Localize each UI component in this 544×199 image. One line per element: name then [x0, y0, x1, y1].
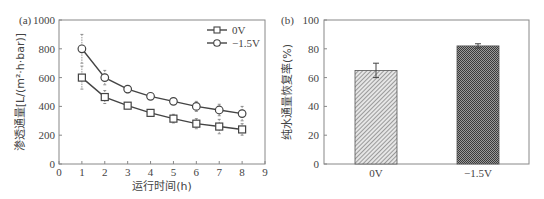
bar-rect: [457, 46, 499, 164]
x-tick-label: 0: [56, 166, 62, 178]
y-tick-label: 0: [50, 158, 56, 170]
x-tick-label: 5: [171, 166, 177, 178]
circle-marker: [238, 110, 246, 118]
circle-marker: [78, 45, 86, 53]
circle-marker: [124, 85, 132, 93]
circle-marker: [215, 106, 223, 114]
x-axis-title: 运行时间(h): [132, 180, 192, 193]
square-marker: [147, 109, 154, 116]
x-tick-label: 2: [102, 166, 108, 178]
y-tick-label: 40: [308, 100, 320, 112]
y-tick-label: 800: [39, 43, 56, 55]
x-tick-label: 1: [79, 166, 85, 178]
y-tick-label: 200: [39, 129, 56, 141]
x-tick-label: 9: [262, 166, 268, 178]
circle-marker: [170, 98, 178, 106]
x-category-label: 0V: [369, 167, 383, 179]
x-tick-label: 8: [239, 166, 245, 178]
legend-circle-icon: [214, 40, 221, 47]
circle-marker: [193, 103, 201, 111]
y-tick-label: 80: [308, 43, 320, 55]
panel-b-bar-chart: 020406080100纯水通量恢复率(%)(b)0V−1.5V: [280, 14, 529, 179]
bar-rect: [355, 70, 397, 164]
y-axis-title: 渗透通量[L/(m²·h·bar)]: [13, 33, 27, 151]
square-marker: [124, 102, 131, 109]
circle-marker: [147, 93, 155, 101]
legend: 0V−1.5V: [207, 24, 260, 49]
x-tick-label: 4: [148, 166, 154, 178]
square-marker: [101, 94, 108, 101]
legend-label: −1.5V: [232, 37, 260, 49]
circle-marker: [101, 74, 109, 82]
figure: 020040060080010000123456789运行时间(h)渗透通量[L…: [0, 0, 544, 199]
bar-minus-1-5v: −1.5V: [457, 44, 499, 179]
y-tick-label: 60: [308, 72, 320, 84]
square-marker: [170, 115, 177, 122]
square-marker: [78, 74, 85, 81]
panel-a-line-chart: 020040060080010000123456789运行时间(h)渗透通量[L…: [13, 14, 268, 193]
x-tick-label: 3: [125, 166, 131, 178]
series-minus-1-5v: [78, 34, 246, 120]
panel-label: (a): [19, 14, 32, 27]
y-tick-label: 100: [303, 14, 320, 26]
legend-label: 0V: [232, 24, 246, 36]
y-tick-label: 400: [39, 100, 56, 112]
square-marker: [239, 126, 246, 133]
x-tick-label: 7: [216, 166, 222, 178]
legend-square-icon: [214, 27, 220, 33]
y-axis-title: 纯水通量恢复率(%): [280, 44, 294, 140]
y-tick-label: 1000: [33, 14, 56, 26]
square-marker: [193, 120, 200, 127]
square-marker: [216, 123, 223, 130]
y-tick-label: 20: [308, 129, 320, 141]
x-category-label: −1.5V: [464, 167, 492, 179]
x-tick-label: 6: [194, 166, 200, 178]
panel-label: (b): [281, 14, 294, 27]
y-tick-label: 0: [314, 158, 320, 170]
y-tick-label: 600: [39, 72, 56, 84]
bar-0v: 0V: [355, 63, 397, 179]
